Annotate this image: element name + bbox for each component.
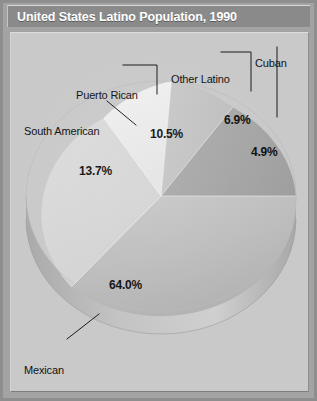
value-label-cuban: 4.9%	[251, 145, 278, 159]
callout-label-mexican: Mexican	[24, 364, 64, 376]
pie-chart-graphic	[11, 33, 309, 392]
callout-label-south-american: South American	[24, 125, 100, 137]
callout-label-cuban: Cuban	[255, 57, 287, 69]
chart-plot-area: Puerto Rican Other Latino Cuban South Am…	[10, 32, 309, 392]
leader-line-other-latino	[221, 52, 251, 91]
chart-title-bar: United States Latino Population, 1990	[7, 5, 310, 27]
value-label-puerto-rican: 10.5%	[150, 127, 183, 141]
callout-label-other-latino: Other Latino	[171, 73, 230, 85]
leader-line-mexican	[67, 314, 99, 339]
chart-figure: United States Latino Population, 1990	[0, 0, 317, 401]
value-label-other-latino: 6.9%	[224, 113, 251, 127]
callout-label-puerto-rican: Puerto Rican	[76, 89, 138, 101]
chart-title: United States Latino Population, 1990	[8, 10, 237, 24]
value-label-south-american: 13.7%	[79, 164, 112, 178]
value-label-mexican: 64.0%	[109, 278, 142, 292]
